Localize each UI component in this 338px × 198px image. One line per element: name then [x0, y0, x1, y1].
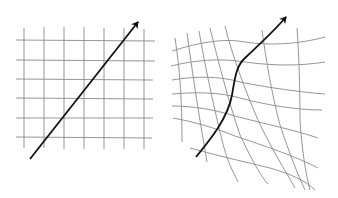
- diagram-canvas: [0, 0, 338, 198]
- figure: Regular grid Warped grid: [0, 0, 338, 198]
- warped-grid: [171, 26, 325, 190]
